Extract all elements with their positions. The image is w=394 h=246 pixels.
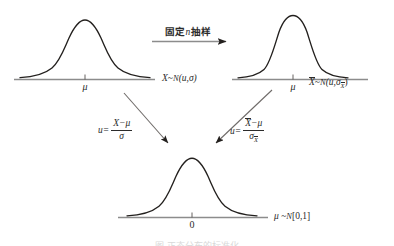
- sampling-dist-params-close: ): [345, 77, 348, 87]
- standardize-xbar-formula-lhs: u=: [230, 127, 241, 137]
- population-panel-graphic: [14, 20, 155, 80]
- population-mu-label: μ: [75, 82, 95, 92]
- figure-caption: 图 正态分布的标准化: [0, 239, 394, 246]
- sampling-random-variable: X: [309, 78, 315, 88]
- figure-caption-text: 图 正态分布的标准化: [155, 241, 239, 246]
- standard-distribution-label: μ ~N[0,1]: [274, 212, 310, 222]
- standard-zero-label: 0: [182, 220, 202, 230]
- sampling-dist-params-subscript: X: [341, 83, 345, 89]
- standardize-xbar-denominator-subscript: X: [254, 137, 258, 144]
- standardize-xbar-numerator: X−μ: [243, 119, 264, 131]
- standardize-x-fraction: X−μ σ: [111, 119, 132, 142]
- fixed-n-sampling-label-suffix: 抽样: [191, 26, 212, 37]
- standardize-xbar-formula: u= X−μ σX: [230, 119, 264, 144]
- fixed-n-sampling-label-prefix: 固定: [165, 26, 186, 37]
- standard-random-variable: μ: [274, 211, 279, 221]
- standardize-xbar-fraction: X−μ σX: [243, 119, 264, 144]
- standardize-x-formula: u= X−μ σ: [98, 119, 132, 142]
- standardize-x-numerator-rest: −μ: [119, 118, 130, 128]
- standard-panel-graphic: [118, 158, 268, 217]
- standardize-xbar-numerator-variable: X: [245, 119, 251, 129]
- population-normal-curve: [20, 20, 150, 78]
- standardize-xbar-numerator-rest: −μ: [251, 118, 262, 128]
- standard-normal-curve: [127, 158, 257, 216]
- standardize-x-denominator: σ: [117, 131, 126, 142]
- sampling-dist-params-open: (u,σ: [326, 77, 341, 87]
- sampling-panel-graphic: [232, 16, 368, 80]
- standard-dist-params: [0,1]: [292, 211, 310, 221]
- population-dist-params: (u,σ): [179, 73, 197, 83]
- population-distribution-label: X~N(u,σ): [162, 74, 197, 84]
- standardize-x-formula-lhs: u=: [98, 126, 109, 136]
- sampling-normal-curve: [238, 16, 348, 78]
- standardize-xbar-denominator: σX: [247, 131, 260, 144]
- fixed-n-sampling-label: 固定n抽样: [165, 27, 211, 38]
- figure-canvas: μ X~N(u,σ) μ X~N(u,σX) 0 μ ~N[0,1] 固定n抽样…: [0, 0, 394, 246]
- standardize-x-numerator: X−μ: [111, 119, 132, 131]
- sampling-mu-label: μ: [283, 82, 303, 92]
- sampling-distribution-label: X~N(u,σX): [309, 78, 348, 89]
